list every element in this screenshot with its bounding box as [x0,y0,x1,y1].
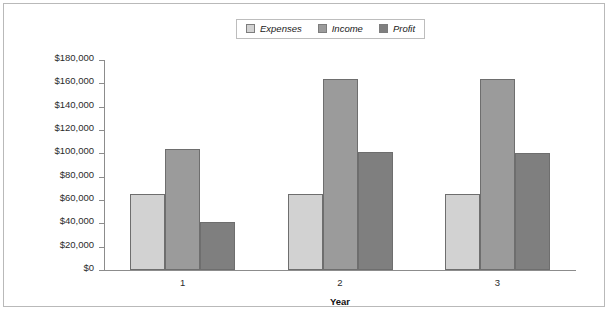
legend-swatch-income [318,24,327,33]
bar-group [445,60,550,270]
y-axis-tick-mark [99,270,104,271]
legend-swatch-profit [379,24,388,33]
bar-profit[interactable] [200,222,235,270]
y-axis-tick-label: $140,000 [54,100,94,110]
y-axis-tick-label: $0 [83,263,94,273]
bar-income[interactable] [480,79,515,270]
y-axis-tick-mark [99,83,104,84]
bar-expenses[interactable] [288,194,323,270]
x-axis-line [104,270,576,271]
y-axis-tick-label: $120,000 [54,123,94,133]
legend-item-profit[interactable]: Profit [379,24,415,34]
bar-expenses[interactable] [130,194,165,270]
y-axis-tick-label: $20,000 [60,240,94,250]
y-axis-tick-label: $40,000 [60,216,94,226]
x-axis-category-label: 2 [310,278,370,288]
legend-label-profit: Profit [393,24,415,34]
legend-swatch-expenses [246,24,255,33]
y-axis-tick-label: $60,000 [60,193,94,203]
bar-group [288,60,393,270]
legend-label-income: Income [332,24,363,34]
y-axis-tick-mark [99,107,104,108]
bar-profit[interactable] [515,153,550,270]
x-axis-category-label: 3 [467,278,527,288]
y-axis-tick-mark [99,223,104,224]
bar-group [130,60,235,270]
y-axis-tick-label: $80,000 [60,170,94,180]
chart-frame: Expenses Income Profit $180,000$160,000$… [3,3,605,307]
y-axis-tick-mark [99,60,104,61]
y-axis-tick-label: $180,000 [54,53,94,63]
x-axis-title: Year [104,297,576,307]
x-axis-category-label: 1 [153,278,213,288]
legend-label-expenses: Expenses [260,24,302,34]
y-axis-tick-mark [99,247,104,248]
bar-profit[interactable] [358,152,393,270]
y-axis-tick-mark [99,200,104,201]
y-axis-tick-mark [99,130,104,131]
bar-income[interactable] [165,149,200,270]
y-axis-tick-mark [99,153,104,154]
y-axis-line [104,60,105,271]
chart-legend: Expenses Income Profit [236,19,425,39]
y-axis-tick-label: $160,000 [54,76,94,86]
bar-income[interactable] [323,79,358,270]
y-axis-tick-mark [99,177,104,178]
plot-area: $180,000$160,000$140,000$120,000$100,000… [104,60,576,271]
legend-item-income[interactable]: Income [318,24,363,34]
bar-expenses[interactable] [445,194,480,270]
legend-item-expenses[interactable]: Expenses [246,24,302,34]
y-axis-tick-label: $100,000 [54,146,94,156]
